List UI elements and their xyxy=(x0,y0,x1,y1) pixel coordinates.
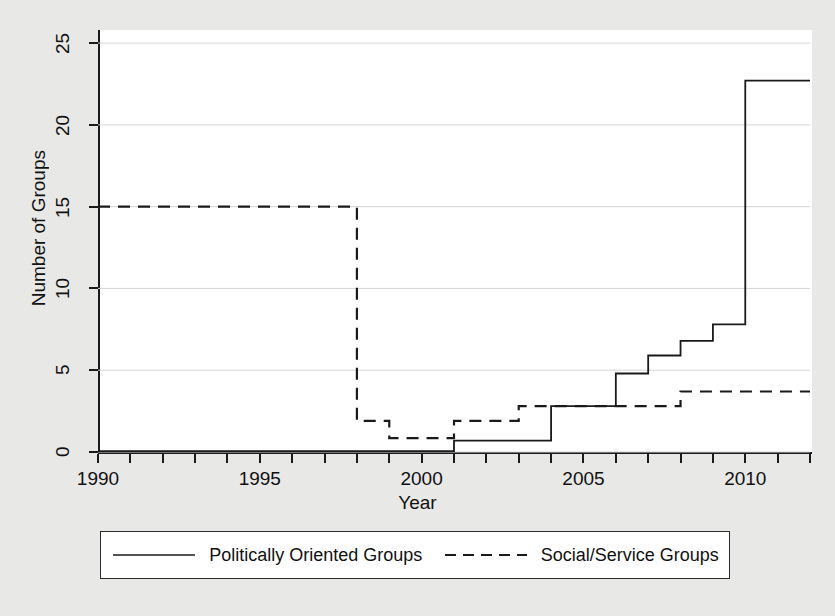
y-tick-mark xyxy=(89,369,98,371)
y-tick-label: 15 xyxy=(52,191,78,223)
x-tick-label: 1990 xyxy=(77,468,119,490)
legend-key-solid-icon xyxy=(111,548,197,562)
legend-key-dashed-icon xyxy=(443,548,529,562)
y-tick-mark xyxy=(89,124,98,126)
x-tick-mark xyxy=(777,454,779,463)
x-tick-mark xyxy=(421,454,423,463)
x-tick-mark xyxy=(388,454,390,463)
x-tick-label: 2010 xyxy=(724,468,766,490)
series-lines xyxy=(98,81,810,451)
x-axis-label: Year xyxy=(0,492,835,514)
y-tick-mark xyxy=(89,451,98,453)
x-tick-mark xyxy=(162,454,164,463)
y-tick-mark xyxy=(89,42,98,44)
y-axis-label: Number of Groups xyxy=(28,150,50,306)
x-tick-mark xyxy=(129,454,131,463)
x-tick-mark xyxy=(226,454,228,463)
x-tick-mark xyxy=(97,454,99,463)
figure-chart: 0510152025 19901995200020052010 Number o… xyxy=(0,0,835,616)
x-tick-mark xyxy=(194,454,196,463)
y-tick-mark xyxy=(89,206,98,208)
x-tick-mark xyxy=(453,454,455,463)
series-line-social-service-groups xyxy=(98,207,810,438)
y-tick-label: 10 xyxy=(52,272,78,304)
legend-item-politically-oriented-groups: Politically Oriented Groups xyxy=(111,545,422,566)
x-tick-label: 1995 xyxy=(239,468,281,490)
y-tick-label: 25 xyxy=(52,27,78,59)
x-tick-label: 2000 xyxy=(400,468,442,490)
x-tick-mark xyxy=(485,454,487,463)
series-line-politically-oriented-groups xyxy=(98,81,810,451)
x-tick-mark xyxy=(744,454,746,463)
x-tick-mark xyxy=(712,454,714,463)
x-tick-mark xyxy=(582,454,584,463)
y-tick-label: 20 xyxy=(52,109,78,141)
x-tick-mark xyxy=(324,454,326,463)
legend-label-politically-oriented-groups: Politically Oriented Groups xyxy=(209,545,422,566)
chart-legend: Politically Oriented Groups Social/Servi… xyxy=(100,531,730,579)
x-tick-mark xyxy=(615,454,617,463)
x-tick-mark xyxy=(647,454,649,463)
x-tick-mark xyxy=(356,454,358,463)
y-tick-label: 0 xyxy=(52,436,78,468)
legend-item-social-service-groups: Social/Service Groups xyxy=(443,545,719,566)
x-tick-mark xyxy=(550,454,552,463)
chart-svg xyxy=(0,0,835,616)
x-tick-mark xyxy=(809,454,811,463)
legend-label-social-service-groups: Social/Service Groups xyxy=(541,545,719,566)
x-tick-mark xyxy=(291,454,293,463)
x-tick-mark xyxy=(518,454,520,463)
y-tick-mark xyxy=(89,287,98,289)
x-tick-label: 2005 xyxy=(562,468,604,490)
x-tick-mark xyxy=(680,454,682,463)
x-tick-mark xyxy=(259,454,261,463)
y-tick-label: 5 xyxy=(52,354,78,386)
